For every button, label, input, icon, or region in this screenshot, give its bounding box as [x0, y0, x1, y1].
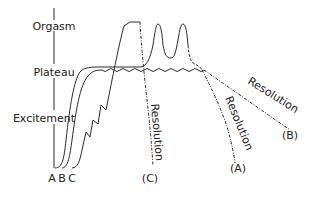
- label-start-c: C: [68, 172, 76, 185]
- label-excitement: Excitement: [13, 112, 76, 125]
- label-start-b: B: [58, 172, 66, 185]
- curve-a-transition: [188, 45, 202, 70]
- label-end-a: (A): [230, 162, 246, 175]
- label-end-b: (B): [282, 129, 298, 142]
- curve-a: [55, 24, 188, 168]
- label-plateau: Plateau: [33, 66, 74, 79]
- label-resolution-b: Resolution: [245, 75, 301, 116]
- label-resolution-c: Resolution: [148, 103, 166, 161]
- curve-c: [72, 22, 140, 168]
- label-orgasm: Orgasm: [32, 20, 75, 33]
- curve-b: [62, 69, 204, 169]
- label-start-a: A: [48, 172, 56, 185]
- label-end-c: (C): [142, 172, 158, 185]
- response-cycle-diagram: Orgasm Plateau Excitement A B C Resoluti…: [0, 0, 318, 197]
- curve-c-resolution: [140, 22, 153, 166]
